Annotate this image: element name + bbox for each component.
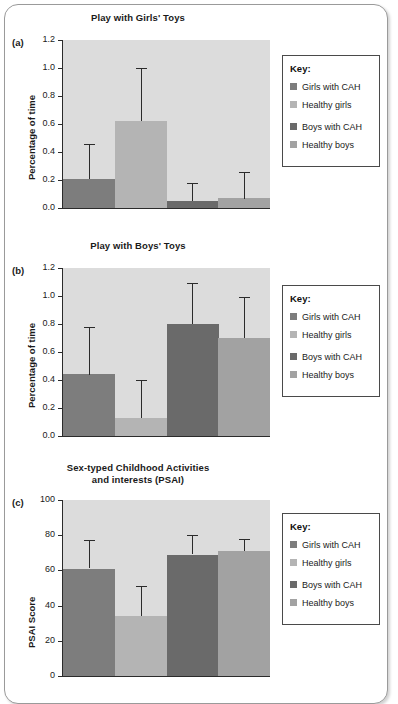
y-tick-2-5 [58, 296, 62, 297]
y-tick-1-5 [58, 68, 62, 69]
legend-label-3-2: Healthy girls [302, 558, 352, 568]
bar-3-4 [218, 551, 270, 676]
error-bar-stem-2-1 [89, 327, 90, 375]
y-tick-label-2-1: 0.2 [19, 402, 55, 412]
error-bar-stem-3-1 [89, 540, 90, 568]
y-tick-2-0 [58, 436, 62, 437]
y-tick-label-3-5: 100 [19, 494, 55, 504]
legend-label-2-4: Healthy boys [302, 370, 354, 380]
y-tick-3-4 [58, 535, 62, 536]
y-tick-label-2-5: 1.0 [19, 290, 55, 300]
y-tick-1-0 [58, 208, 62, 209]
legend-swatch-3-2 [290, 559, 297, 566]
bar-1-2 [115, 121, 167, 208]
legend-swatch-1-3 [290, 123, 297, 130]
legend-label-3-1: Girls with CAH [302, 540, 361, 550]
y-tick-label-1-2: 0.4 [19, 146, 55, 156]
bar-2-3 [167, 324, 219, 436]
error-bar-stem-1-3 [192, 183, 193, 201]
legend-swatch-1-1 [290, 83, 297, 90]
y-tick-3-1 [58, 641, 62, 642]
error-bar-stem-1-1 [89, 144, 90, 179]
y-tick-2-6 [58, 268, 62, 269]
y-tick-1-2 [58, 152, 62, 153]
error-bar-cap-1-2 [136, 68, 147, 69]
y-tick-label-1-3: 0.6 [19, 118, 55, 128]
bar-3-3 [167, 555, 219, 676]
legend-swatch-1-4 [290, 141, 297, 148]
y-tick-3-5 [58, 500, 62, 501]
y-tick-1-6 [58, 40, 62, 41]
legend-label-1-1: Girls with CAH [302, 82, 361, 92]
chart-title-2: Play with Boys' Toys [8, 240, 268, 252]
error-bar-stem-2-3 [192, 283, 193, 324]
y-tick-1-3 [58, 124, 62, 125]
y-tick-1-4 [58, 96, 62, 97]
legend-swatch-1-2 [290, 101, 297, 108]
chart-title-3: Sex-typed Childhood Activitiesand intere… [8, 462, 268, 486]
y-tick-label-1-4: 0.8 [19, 90, 55, 100]
error-bar-stem-3-3 [192, 535, 193, 554]
y-tick-label-3-4: 80 [19, 529, 55, 539]
error-bar-cap-1-4 [239, 172, 250, 173]
y-tick-2-3 [58, 352, 62, 353]
y-tick-label-1-1: 0.2 [19, 174, 55, 184]
y-tick-label-2-3: 0.6 [19, 346, 55, 356]
legend-1: Key:Girls with CAHHealthy girlsBoys with… [282, 55, 380, 167]
legend-title-3: Key: [290, 521, 373, 532]
legend-label-3-4: Healthy boys [302, 598, 354, 608]
legend-swatch-2-4 [290, 371, 297, 378]
legend-title-2: Key: [290, 293, 373, 304]
x-axis-line-1 [59, 208, 270, 209]
legend-swatch-2-1 [290, 313, 297, 320]
y-axis-title-1: Percentage of time [26, 95, 37, 180]
error-bar-cap-3-4 [239, 539, 250, 540]
error-bar-cap-2-4 [239, 297, 250, 298]
y-tick-label-3-2: 40 [19, 600, 55, 610]
legend-3: Key:Girls with CAHHealthy girlsBoys with… [282, 513, 380, 625]
bar-3-2 [115, 616, 167, 676]
error-bar-cap-3-2 [136, 586, 147, 587]
error-bar-stem-1-2 [141, 68, 142, 121]
y-tick-3-3 [58, 570, 62, 571]
chart-title-1: Play with Girls' Toys [8, 12, 268, 24]
error-bar-cap-3-1 [84, 540, 95, 541]
legend-item-1-1: Girls with CAH [290, 81, 373, 92]
y-tick-label-3-3: 60 [19, 564, 55, 574]
x-axis-line-3 [59, 676, 270, 677]
error-bar-stem-2-4 [244, 297, 245, 338]
error-bar-cap-2-3 [187, 283, 198, 284]
y-tick-label-1-5: 1.0 [19, 62, 55, 72]
y-tick-label-1-0: 0.0 [19, 202, 55, 212]
y-tick-label-2-4: 0.8 [19, 318, 55, 328]
legend-label-2-3: Boys with CAH [302, 352, 362, 362]
legend-item-3-2: Healthy girls [290, 557, 373, 568]
x-axis-line-2 [59, 436, 270, 437]
legend-item-1-3: Boys with CAH [290, 121, 373, 132]
legend-swatch-3-1 [290, 541, 297, 548]
legend-title-1: Key: [290, 63, 373, 74]
y-tick-2-2 [58, 380, 62, 381]
legend-item-3-3: Boys with CAH [290, 579, 373, 590]
bar-1-1 [63, 179, 115, 208]
error-bar-cap-2-2 [136, 380, 147, 381]
y-tick-2-1 [58, 408, 62, 409]
y-tick-1-1 [58, 180, 62, 181]
y-tick-3-0 [58, 676, 62, 677]
legend-swatch-2-2 [290, 331, 297, 338]
error-bar-cap-1-1 [84, 144, 95, 145]
y-tick-label-2-2: 0.4 [19, 374, 55, 384]
bar-2-2 [115, 418, 167, 436]
error-bar-cap-1-3 [187, 183, 198, 184]
legend-item-3-1: Girls with CAH [290, 539, 373, 550]
legend-item-3-4: Healthy boys [290, 597, 373, 608]
error-bar-stem-3-4 [244, 539, 245, 551]
bar-3-1 [63, 569, 115, 676]
legend-swatch-3-4 [290, 599, 297, 606]
y-tick-label-3-1: 20 [19, 635, 55, 645]
y-tick-2-4 [58, 324, 62, 325]
y-axis-title-2: Percentage of time [26, 323, 37, 408]
legend-item-1-4: Healthy boys [290, 139, 373, 150]
legend-label-1-2: Healthy girls [302, 100, 352, 110]
y-tick-label-2-6: 1.2 [19, 262, 55, 272]
